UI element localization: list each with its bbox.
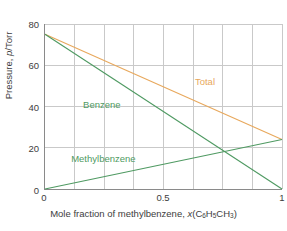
series-line-benzene bbox=[45, 34, 282, 189]
plot-area: Total Benzene Methylbenzene bbox=[44, 24, 282, 190]
x-tick-label-0: 0 bbox=[28, 193, 60, 203]
y-axis-title-suffix: /Torr bbox=[3, 32, 14, 51]
x-tick-label-0-5: 0.5 bbox=[147, 193, 179, 203]
x-axis-title-prefix: Mole fraction of methylbenzene, bbox=[50, 208, 187, 219]
x-axis-formula-ch: CH bbox=[216, 208, 230, 219]
series-label-benzene: Benzene bbox=[83, 100, 121, 110]
series-lines bbox=[45, 24, 282, 189]
x-axis-title: Mole fraction of methylbenzene, x(C6H5CH… bbox=[0, 208, 287, 219]
y-tick-label-20: 20 bbox=[0, 144, 39, 154]
y-axis-title-symbol: p bbox=[3, 51, 14, 56]
series-line-total bbox=[45, 34, 282, 139]
y-axis-title-prefix: Pressure, bbox=[3, 56, 14, 99]
series-line-methylbenzene bbox=[45, 140, 282, 190]
x-axis-formula-h: H bbox=[206, 208, 213, 219]
x-axis-formula-close: ) bbox=[234, 208, 237, 219]
x-axis-formula-open: (C bbox=[192, 208, 202, 219]
series-label-methylbenzene: Methylbenzene bbox=[71, 154, 135, 164]
raoults-law-pressure-chart: 80 60 40 20 0 0 0.5 1 Pressure, p/Torr M… bbox=[0, 0, 287, 231]
y-axis-title: Pressure, p/Torr bbox=[3, 6, 14, 126]
x-tick-label-1: 1 bbox=[266, 193, 287, 203]
series-label-total: Total bbox=[195, 77, 215, 87]
